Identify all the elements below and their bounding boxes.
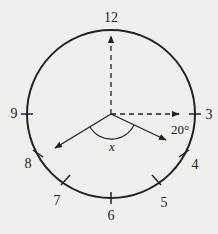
hour-label-8: 8	[25, 157, 32, 171]
clock-figure	[0, 0, 218, 234]
hour-label-5: 5	[161, 196, 168, 210]
arrow-lower-left	[55, 114, 111, 148]
hour-label-3: 3	[206, 108, 213, 122]
angle-label-x: x	[109, 140, 115, 153]
hour-label-4: 4	[192, 158, 199, 172]
angle-arc-x	[90, 125, 134, 139]
hour-label-6: 6	[108, 209, 115, 223]
angle-label-20-degrees: 20°	[171, 123, 189, 136]
hour-label-9: 9	[11, 107, 18, 121]
hour-label-7: 7	[54, 194, 61, 208]
hour-label-12: 12	[104, 11, 118, 25]
arrow-lower-right	[111, 114, 166, 140]
clock-diagram: 12 3 4 5 6 7 8 9 x 20°	[0, 0, 218, 234]
